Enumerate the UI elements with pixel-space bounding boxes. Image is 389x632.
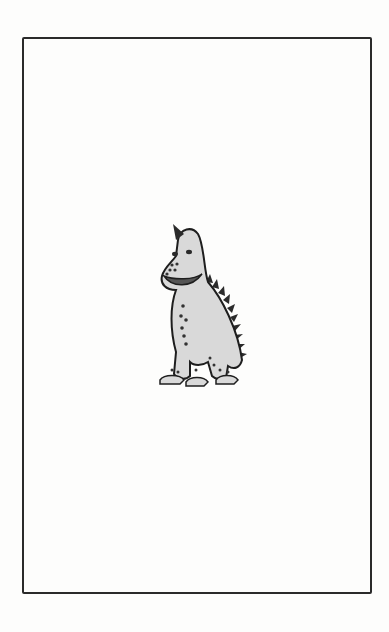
dinosaur-illustration bbox=[150, 220, 262, 392]
